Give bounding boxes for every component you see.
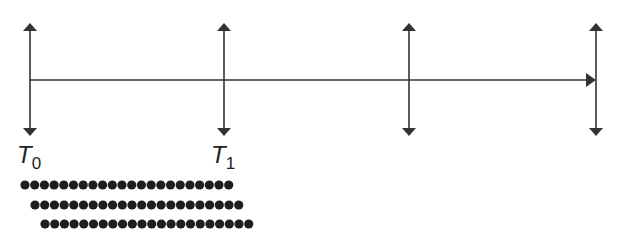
- dot-row-2-dot: [234, 219, 243, 228]
- dot-row-0-dot: [69, 180, 78, 189]
- dot-row-2-dot: [89, 219, 98, 228]
- dot-row-1-dot: [118, 200, 127, 209]
- dot-row-0-dot: [166, 180, 175, 189]
- dot-row-2-dot: [137, 219, 146, 228]
- dot-row-1-dot: [186, 200, 195, 209]
- marker-down-arrow-icon: [23, 128, 37, 136]
- dot-row-0-dot: [147, 180, 156, 189]
- dot-row-0-dot: [40, 180, 49, 189]
- dot-row-1-dot: [157, 200, 166, 209]
- dot-row-2-dot: [157, 219, 166, 228]
- timeline-diagram: T0 T1: [0, 0, 617, 239]
- marker-down-arrow-icon: [217, 128, 231, 136]
- dot-row-1-dot: [108, 200, 117, 209]
- marker-down-arrow-icon: [589, 128, 603, 136]
- dot-row-2-dot: [60, 219, 69, 228]
- dot-row-0-dot: [79, 180, 88, 189]
- marker-down-arrow-icon: [402, 128, 416, 136]
- label-t1: T1: [211, 143, 235, 172]
- dot-row-1-dot: [234, 200, 243, 209]
- dot-row-1-dot: [224, 200, 233, 209]
- marker-up-arrow-icon: [402, 23, 416, 31]
- marker-up-arrow-icon: [589, 23, 603, 31]
- label-t0-subscript: 0: [32, 154, 41, 173]
- dot-row-0-dot: [185, 180, 194, 189]
- dot-row-2-dot: [70, 219, 79, 228]
- dot-row-2-dot: [244, 219, 253, 228]
- dot-row-2-dot: [40, 219, 49, 228]
- dot-row-0-dot: [20, 180, 29, 189]
- dot-row-2-dot: [79, 219, 88, 228]
- dot-row-0-dot: [214, 180, 223, 189]
- dot-row-0-dot: [224, 180, 233, 189]
- label-t0-text: T: [17, 141, 32, 168]
- marker-up-arrow-icon: [23, 23, 37, 31]
- dot-row-0-dot: [98, 180, 107, 189]
- dot-row-0-dot: [176, 180, 185, 189]
- dot-row-2-dot: [128, 219, 137, 228]
- dot-row-1-dot: [137, 200, 146, 209]
- dot-row-1-dot: [166, 200, 175, 209]
- dot-row-1-dot: [60, 200, 69, 209]
- dot-row-2-dot: [186, 219, 195, 228]
- dot-row-0-dot: [108, 180, 117, 189]
- dot-row-1-dot: [40, 200, 49, 209]
- dot-row-0-dot: [156, 180, 165, 189]
- label-t1-subscript: 1: [226, 154, 235, 173]
- dot-row-2-dot: [225, 219, 234, 228]
- dot-row-2-dot: [50, 219, 59, 228]
- dot-row-1-dot: [79, 200, 88, 209]
- dot-row-0-dot: [30, 180, 39, 189]
- dot-row-0-dot: [205, 180, 214, 189]
- dot-row-2-dot: [108, 219, 117, 228]
- dot-row-1-dot: [127, 200, 136, 209]
- dot-row-2-dot: [99, 219, 108, 228]
- dot-row-2-dot: [215, 219, 224, 228]
- dot-row-1-dot: [98, 200, 107, 209]
- marker-up-arrow-icon: [217, 23, 231, 31]
- dot-row-1-dot: [205, 200, 214, 209]
- dot-row-1-dot: [69, 200, 78, 209]
- dot-row-2-dot: [118, 219, 127, 228]
- dot-row-2-dot: [205, 219, 214, 228]
- dot-row-1-dot: [176, 200, 185, 209]
- dot-row-0-dot: [88, 180, 97, 189]
- label-t1-text: T: [211, 141, 226, 168]
- dot-row-1-dot: [89, 200, 98, 209]
- timeline-arrowhead-icon: [586, 73, 596, 87]
- dot-row-2-dot: [167, 219, 176, 228]
- dot-row-0-dot: [137, 180, 146, 189]
- diagram-canvas: [0, 0, 617, 239]
- dot-row-1-dot: [147, 200, 156, 209]
- dot-row-1-dot: [30, 200, 39, 209]
- dot-row-0-dot: [117, 180, 126, 189]
- dot-row-0-dot: [195, 180, 204, 189]
- dot-row-2-dot: [147, 219, 156, 228]
- dot-row-2-dot: [176, 219, 185, 228]
- dot-row-1-dot: [215, 200, 224, 209]
- dot-row-0-dot: [59, 180, 68, 189]
- dot-row-0-dot: [127, 180, 136, 189]
- dot-row-0-dot: [50, 180, 59, 189]
- label-t0: T0: [17, 143, 41, 172]
- dot-row-2-dot: [196, 219, 205, 228]
- dot-row-1-dot: [195, 200, 204, 209]
- dot-row-1-dot: [50, 200, 59, 209]
